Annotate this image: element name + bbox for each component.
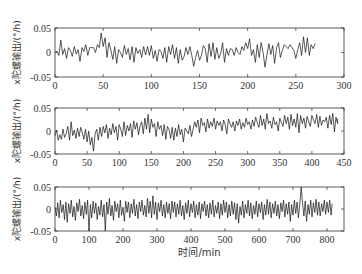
subplot-1: 050100150200250300-0.0500.05x陀螺输出/(°/h) xyxy=(11,20,352,91)
y-tick-label: 0.05 xyxy=(34,182,52,193)
x-tick-label: 0 xyxy=(53,80,58,91)
x-tick-label: 0 xyxy=(53,157,58,168)
signal-trace xyxy=(55,114,338,152)
signal-trace xyxy=(55,187,332,231)
subplot-3: 0100200300400500600700800-0.0500.05x陀螺输出… xyxy=(11,177,344,258)
x-tick-label: 50 xyxy=(82,157,92,168)
x-tick-label: 100 xyxy=(82,234,97,245)
x-tick-label: 400 xyxy=(184,234,199,245)
x-tick-label: 600 xyxy=(252,234,267,245)
y-axis-label: x陀螺输出/(°/h) xyxy=(11,20,22,85)
y-tick-label: 0.05 xyxy=(34,23,52,34)
x-axis-label: 时间/min xyxy=(178,246,220,258)
y-axis-label: x陀螺输出/(°/h) xyxy=(11,177,22,242)
x-tick-label: 200 xyxy=(240,80,255,91)
x-tick-label: 150 xyxy=(144,157,159,168)
x-tick-label: 0 xyxy=(53,234,58,245)
x-tick-label: 300 xyxy=(337,80,352,91)
x-tick-label: 100 xyxy=(144,80,159,91)
x-tick-label: 50 xyxy=(98,80,108,91)
axes-box xyxy=(55,28,344,77)
x-tick-label: 350 xyxy=(272,157,287,168)
chart-figure: 050100150200250300-0.0500.05x陀螺输出/(°/h)0… xyxy=(0,0,362,274)
x-tick-label: 700 xyxy=(286,234,301,245)
x-tick-label: 500 xyxy=(218,234,233,245)
subplot-2: 050100150200250300350400450-0.0500.05x陀螺… xyxy=(11,99,352,168)
x-tick-label: 250 xyxy=(208,157,223,168)
x-tick-label: 150 xyxy=(192,80,207,91)
y-axis-label: x陀螺输出/(°/h) xyxy=(11,99,22,164)
x-tick-label: 200 xyxy=(176,157,191,168)
y-tick-label: 0 xyxy=(46,126,51,137)
y-tick-label: -0.05 xyxy=(30,226,51,237)
x-tick-label: 450 xyxy=(337,157,352,168)
x-tick-label: 300 xyxy=(150,234,165,245)
x-tick-label: 200 xyxy=(116,234,131,245)
y-tick-label: -0.05 xyxy=(30,72,51,83)
y-tick-label: -0.05 xyxy=(30,149,51,160)
y-tick-label: 0 xyxy=(46,204,51,215)
y-tick-label: 0.05 xyxy=(34,103,52,114)
x-tick-label: 400 xyxy=(304,157,319,168)
y-tick-label: 0 xyxy=(46,47,51,58)
x-tick-label: 800 xyxy=(320,234,335,245)
x-tick-label: 250 xyxy=(288,80,303,91)
x-tick-label: 100 xyxy=(112,157,127,168)
signal-trace xyxy=(55,33,315,67)
x-tick-label: 300 xyxy=(240,157,255,168)
